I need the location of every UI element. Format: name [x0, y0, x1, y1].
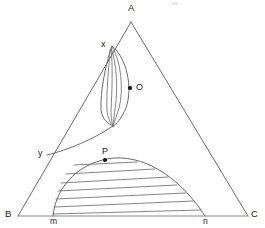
label-vertex-c: C — [251, 209, 258, 219]
crescent-hatch-lines — [107, 47, 122, 126]
dome-hatch-line — [54, 201, 194, 207]
label-point-n: n — [203, 217, 208, 226]
triangle-side-ac — [131, 22, 248, 216]
dome-hatch-line — [74, 162, 137, 165]
dome-hatch-line — [56, 193, 186, 199]
label-vertex-b: B — [5, 209, 11, 219]
dome-hatch-lines — [53, 162, 201, 214]
dome-boundary — [53, 158, 205, 216]
label-point-p: P — [102, 147, 108, 156]
point-o-marker — [128, 86, 132, 90]
dome-hatch-line — [61, 177, 168, 183]
label-point-m: m — [50, 217, 57, 226]
label-point-x: x — [101, 40, 106, 49]
label-vertex-a: A — [128, 3, 134, 13]
point-p-marker — [103, 158, 107, 162]
dome-hatch-line — [66, 169, 155, 174]
label-point-o: O — [136, 83, 143, 92]
dome-hatch-line — [58, 185, 177, 191]
dome-hatch-line — [53, 210, 201, 214]
label-point-y: y — [38, 149, 43, 158]
crescent-hatch-line — [111, 49, 113, 126]
triangle-diagram: A B C x y m n O P — [0, 0, 265, 228]
diagram-canvas — [0, 0, 265, 228]
